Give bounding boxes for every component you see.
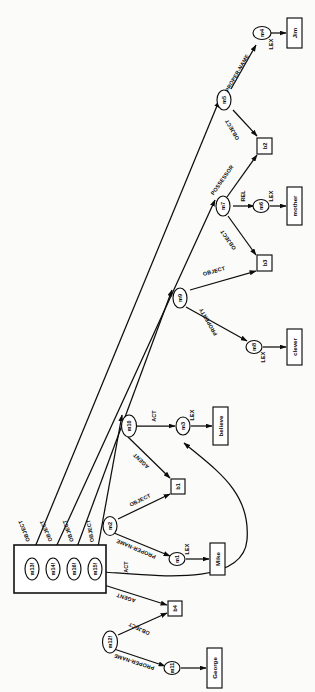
arc-label-act-m15: ACT [123,561,129,573]
lexeme-george[interactable]: George [207,648,222,688]
node-b3[interactable]: b3 [257,255,272,271]
node-b4[interactable]: b4 [168,601,182,616]
node-m6-label: m6 [258,202,264,210]
node-m7[interactable]: m7 [216,196,230,216]
lexeme-mike-label: Mike [214,552,221,566]
node-b1[interactable]: b1 [171,479,185,494]
node-m8[interactable]: m8 [246,341,262,354]
semantic-network-diagram: PROPER-NAME LEX OBJECT POSSESSOR REL LEX… [0,0,315,692]
node-m5-label: m5 [221,96,227,104]
node-m2[interactable]: m2 [103,517,117,536]
node-m5[interactable]: m5 [217,90,231,110]
node-m16[interactable]: m16! [67,558,81,580]
node-m14[interactable]: m14! [46,558,60,580]
lexeme-clever-label: clever [291,337,298,355]
lexeme-mike[interactable]: Mike [210,543,225,575]
node-m2-label: m2 [107,522,113,530]
node-b4-label: b4 [172,604,178,611]
node-m8-label: m8 [251,343,257,351]
node-m4[interactable]: m4 [253,27,271,40]
node-m15-label: m15! [92,562,98,575]
lexeme-mother-label: mother [291,195,298,217]
node-b2-label: b2 [262,143,268,150]
lexeme-jim-label: Jim [291,27,298,38]
lexeme-jim[interactable]: Jim [287,18,302,48]
arc-label-lex-m3: LEX [189,409,195,420]
node-m14-label: m14! [50,562,56,575]
node-m16-label: m16! [71,562,77,575]
arc-label-lex-m8: LEX [260,351,266,362]
arc-label-lex-m1: LEX [184,543,190,554]
node-m15[interactable]: m15! [88,558,102,580]
node-m1[interactable]: m1 [169,553,185,566]
lexeme-george-label: George [211,657,218,679]
lexeme-mother[interactable]: mother [287,187,302,225]
lexeme-believe[interactable]: believe [213,407,228,445]
lexeme-clever[interactable]: clever [287,329,302,365]
node-m13-label: m13! [29,562,35,575]
node-m7-label: m7 [220,202,226,210]
node-m9[interactable]: m9 [173,288,187,308]
node-m10[interactable]: m10 [122,415,137,437]
node-m12-label: m12! [107,635,113,648]
node-m10-label: m10 [126,420,132,431]
node-m11[interactable]: m11 [164,662,180,675]
arc-label-act-m10: ACT [151,410,157,422]
node-b1-label: b1 [175,483,181,490]
node-m9-label: m9 [177,294,183,302]
arc-label-lex-m6: LEX [268,190,274,201]
node-m11-label: m11 [169,663,175,674]
node-m4-label: m4 [259,28,265,37]
arc-label-lex-m4: LEX [268,38,274,49]
diagram-canvas: PROPER-NAME LEX OBJECT POSSESSOR REL LEX… [0,0,315,692]
node-m1-label: m1 [174,555,180,563]
node-m3[interactable]: m3 [176,417,190,435]
lexeme-believe-label: believe [217,415,224,437]
node-m3-label: m3 [180,422,186,430]
node-b2[interactable]: b2 [257,138,272,154]
node-m13[interactable]: m13! [25,558,39,580]
node-m12[interactable]: m12! [103,631,118,653]
arc-label-rel-m7: REL [240,190,246,202]
node-b3-label: b3 [262,260,268,267]
node-m6[interactable]: m6 [253,200,269,213]
